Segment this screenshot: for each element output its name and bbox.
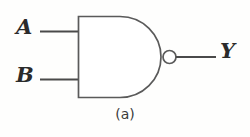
nand-gate-figure: A B Y (a) bbox=[0, 0, 250, 137]
inversion-bubble bbox=[163, 51, 176, 64]
output-label-y: Y bbox=[220, 40, 235, 61]
input-label-b: B bbox=[16, 64, 34, 85]
figure-caption: (a) bbox=[0, 107, 250, 121]
input-label-a: A bbox=[16, 16, 32, 37]
and-gate-body bbox=[79, 17, 162, 98]
